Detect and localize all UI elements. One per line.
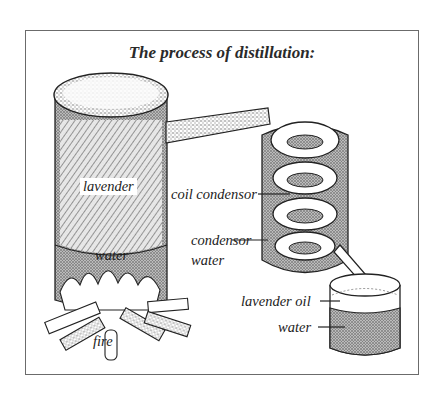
label-water-vessel: water <box>278 320 311 335</box>
label-lavender-oil: lavender oil <box>241 294 311 309</box>
label-lavender: lavender <box>80 178 137 195</box>
label-coil-condensor: coil condensor <box>171 187 257 202</box>
label-water-pot: water <box>95 248 128 263</box>
pipe <box>166 108 270 143</box>
label-condensor-water-1: condensor <box>191 233 251 248</box>
collection-vessel <box>330 274 400 355</box>
label-fire: fire <box>93 334 113 349</box>
label-condensor-water-2: water <box>191 253 224 268</box>
fire <box>45 271 191 360</box>
coil-condensor <box>262 122 372 288</box>
